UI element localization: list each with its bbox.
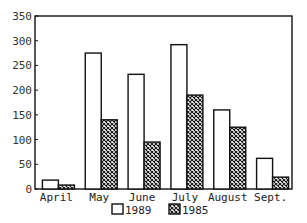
bar-july-1985 (187, 95, 203, 189)
bar-april-1985 (58, 185, 74, 189)
x-category-label: May (89, 191, 109, 204)
plot-border (35, 16, 292, 189)
y-tick-label: 50 (19, 158, 32, 171)
bar-sept-1985 (273, 177, 289, 189)
legend: 19891985 (112, 204, 209, 217)
plot-frame (35, 16, 292, 189)
x-category-label: July (172, 191, 199, 204)
y-tick-label: 0 (25, 183, 32, 196)
legend-label: 1985 (182, 204, 209, 217)
bar-chart: 050100150200250300350 AprilMayJuneJulyAu… (0, 0, 307, 223)
x-category-label: June (129, 191, 156, 204)
legend-swatch-plain (112, 204, 123, 214)
bars (42, 45, 288, 189)
y-tick-label: 350 (12, 10, 32, 23)
x-category-label: April (40, 191, 73, 204)
x-axis-labels: AprilMayJuneJulyAugustSept. (40, 191, 287, 204)
bar-august-1985 (230, 127, 246, 189)
x-category-label: Sept. (254, 191, 287, 204)
bar-july-1989 (171, 45, 187, 189)
y-tick-label: 150 (12, 109, 32, 122)
y-tick-label: 300 (12, 35, 32, 48)
bar-june-1985 (144, 142, 160, 189)
bar-may-1985 (101, 120, 117, 189)
bar-sept-1989 (257, 158, 273, 189)
y-tick-label: 250 (12, 59, 32, 72)
legend-label: 1989 (125, 204, 152, 217)
y-tick-label: 100 (12, 134, 32, 147)
bar-april-1989 (42, 180, 58, 189)
bar-august-1989 (214, 110, 230, 189)
bar-may-1989 (85, 53, 101, 189)
bar-june-1989 (128, 74, 144, 189)
y-axis: 050100150200250300350 (12, 10, 38, 196)
legend-swatch-crosshatch (169, 204, 180, 214)
y-tick-label: 200 (12, 84, 32, 97)
x-category-label: August (208, 191, 248, 204)
